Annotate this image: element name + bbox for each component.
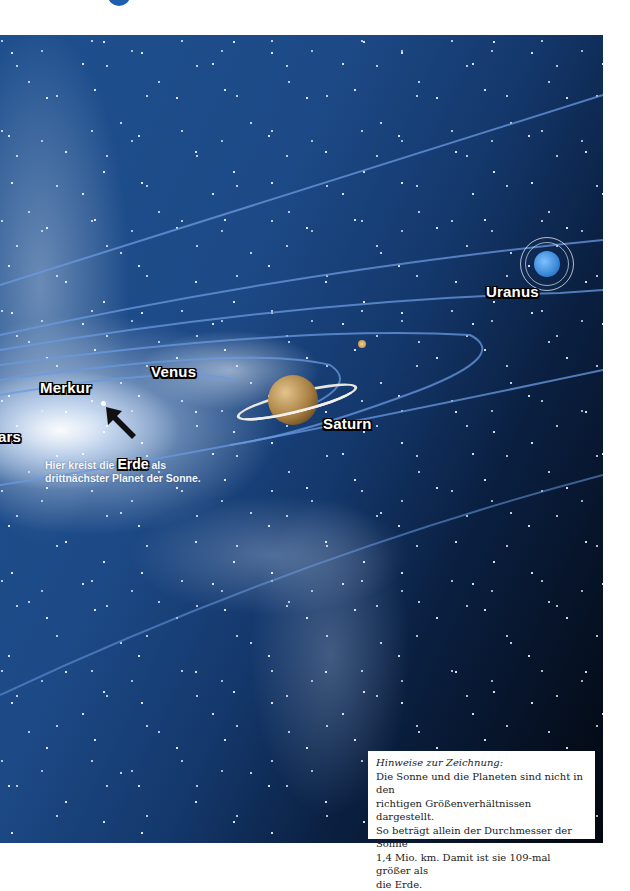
info-box-line: richtigen Größenverhältnissen dargestell… <box>376 797 587 824</box>
label-venus: Venus <box>151 363 196 380</box>
label-saturn: Saturn <box>323 415 372 432</box>
earth-note: Hier kreist die Erde als drittnächster P… <box>45 458 205 485</box>
info-box-line: Die Sonne und die Planeten sind nicht in… <box>376 770 587 797</box>
solar-system-illustration: Merkur Venus ars Saturn Uranus Hier krei… <box>0 35 603 843</box>
arrow-icon <box>104 405 140 441</box>
info-box-line: die Erde. <box>376 878 587 891</box>
page-title-fragment <box>108 0 130 6</box>
earth-note-prefix: Hier kreist die <box>45 459 114 471</box>
orbit-lines <box>0 35 603 843</box>
planet-dot <box>358 340 366 348</box>
label-uranus: Uranus <box>486 283 539 300</box>
info-box-line: So beträgt allein der Durchmesser der So… <box>376 824 587 851</box>
info-box-line: 1,4 Mio. km. Damit ist sie 109-mal größe… <box>376 851 587 878</box>
info-box-title: Hinweise zur Zeichnung: <box>376 756 587 770</box>
label-merkur: Merkur <box>40 379 91 396</box>
orbit-neptune <box>0 95 603 285</box>
label-mars: ars <box>0 428 21 445</box>
label-erde: Erde <box>117 456 148 472</box>
drawing-notes-box: Hinweise zur Zeichnung: Die Sonne und di… <box>368 751 595 839</box>
